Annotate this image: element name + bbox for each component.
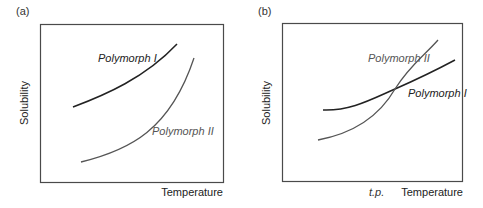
panel-a-frame: [41, 25, 224, 183]
panel-b-frame: [283, 24, 463, 182]
panel-a: (a) Solubility Temperature Polymorph I P…: [16, 5, 224, 198]
panel-b-polymorph-1-curve: [323, 60, 455, 110]
panel-b-xlabel: Temperature: [401, 186, 463, 198]
panel-a-ylabel: Solubility: [18, 80, 30, 125]
solubility-diagram: (a) Solubility Temperature Polymorph I P…: [0, 0, 483, 208]
panel-a-xlabel: Temperature: [161, 186, 223, 198]
panel-b: (b) Solubility Temperature t.p. Polymorp…: [258, 5, 467, 198]
panel-b-transition-point-label: t.p.: [369, 186, 384, 198]
panel-b-polymorph-2-label: Polymorph II: [368, 52, 430, 64]
panel-a-polymorph-2-curve: [81, 58, 194, 162]
panel-b-label: (b): [258, 5, 271, 17]
panel-b-ylabel: Solubility: [260, 80, 272, 125]
panel-a-polymorph-1-label: Polymorph I: [98, 52, 157, 64]
panel-b-polymorph-1-label: Polymorph I: [408, 87, 467, 99]
panel-a-label: (a): [16, 5, 29, 17]
panel-a-polymorph-2-label: Polymorph II: [152, 125, 214, 137]
